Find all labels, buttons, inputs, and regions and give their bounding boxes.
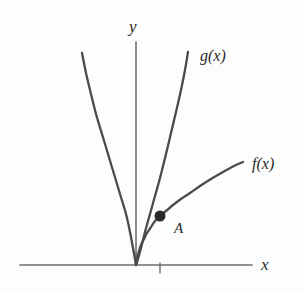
plot-canvas — [0, 0, 304, 292]
point-a-marker — [155, 211, 166, 222]
curve-f-label: f(x) — [252, 156, 274, 172]
curve-g-parabola — [82, 52, 188, 265]
x-axis-label: x — [261, 256, 269, 273]
y-axis-label: y — [129, 18, 137, 35]
curve-f-sqrt — [136, 162, 243, 265]
point-a-label: A — [174, 221, 183, 236]
curve-g-label: g(x) — [200, 48, 226, 64]
function-graph-figure: y x g(x) f(x) A — [0, 0, 304, 292]
